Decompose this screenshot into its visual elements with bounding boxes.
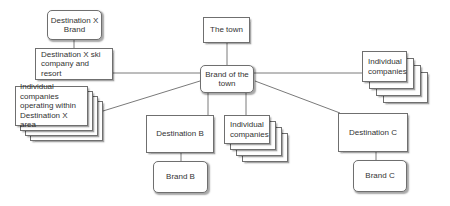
- destination-b-node: Destination B: [146, 115, 214, 153]
- edge-brand-destc: [255, 81, 340, 113]
- individual-companies-right-node: Individual companies: [362, 51, 407, 82]
- brand-hierarchy-diagram: Destination X Brand Destination X ski co…: [0, 0, 450, 206]
- brand-of-town-node: Brand of the town: [200, 65, 254, 93]
- brand-c-node: Brand C: [353, 160, 407, 192]
- individual-companies-x-node: Individual companies operating within De…: [15, 86, 88, 126]
- node-label: Destination C: [349, 128, 397, 138]
- edge-indivx-brand: [103, 81, 200, 111]
- node-label: Destination X Brand: [50, 16, 99, 35]
- destination-x-brand-node: Destination X Brand: [47, 10, 102, 40]
- node-label: Destination B: [156, 129, 204, 139]
- node-label: Brand B: [166, 172, 195, 182]
- node-label: Brand of the town: [203, 70, 251, 89]
- node-label: Destination X ski company and resort: [41, 50, 110, 79]
- the-town-node: The town: [203, 17, 250, 43]
- node-label: Brand C: [365, 171, 394, 181]
- node-label: Individual companies operating within De…: [20, 82, 85, 130]
- node-label: The town: [210, 25, 243, 35]
- brand-b-node: Brand B: [153, 161, 208, 193]
- individual-companies-middle-node: Individual companies: [224, 115, 270, 144]
- destination-c-node: Destination C: [338, 113, 408, 152]
- destination-x-ski-node: Destination X ski company and resort: [35, 48, 113, 80]
- node-label: Individual companies: [230, 120, 269, 139]
- node-label: Individual companies: [368, 57, 407, 76]
